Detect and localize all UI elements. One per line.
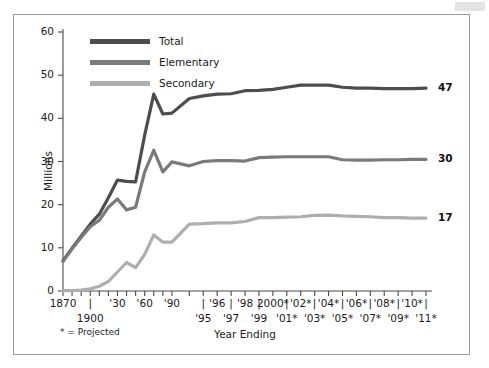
y-tick-label-60: 60 [30, 25, 54, 37]
y-tick-label-20: 20 [30, 198, 54, 210]
legend-swatch-total [90, 39, 150, 44]
x-tick-label-upper-16: '06* [346, 297, 368, 309]
x-tick-label-lower-4: '01* [276, 312, 298, 324]
x-tick-label-upper-15: | [341, 297, 345, 309]
chart-screenshot: Millions 0102030405060 TotalElementarySe… [0, 0, 489, 368]
end-value-total: 47 [438, 81, 453, 93]
legend-item-secondary[interactable]: Secondary [90, 73, 219, 94]
scan-artifact [455, 2, 485, 11]
legend-item-elementary[interactable]: Elementary [90, 52, 219, 73]
legend-label-elementary: Elementary [159, 57, 219, 68]
legend-label-secondary: Secondary [159, 78, 215, 89]
x-tick-label-lower-8: '09* [387, 312, 409, 324]
x-axis-labels-lower: 1900'95'97'99'01*'03*'05*'07*'09*'11* [14, 312, 471, 325]
x-tick-label-lower-7: '07* [360, 312, 382, 324]
x-tick-label-lower-2: '97 [223, 312, 239, 324]
y-tick-label-30: 30 [30, 155, 54, 167]
x-tick-label-upper-3: '60 [137, 297, 153, 309]
x-tick-label-lower-0: 1900 [77, 312, 104, 324]
legend-swatch-secondary [90, 81, 150, 86]
x-tick-label-lower-6: '05* [332, 312, 354, 324]
x-tick-label-upper-8: '98 [237, 297, 253, 309]
x-axis-title: Year Ending [214, 328, 276, 340]
legend-item-total[interactable]: Total [90, 31, 219, 52]
x-tick-label-lower-9: '11* [415, 312, 437, 324]
end-value-elementary: 30 [438, 152, 453, 164]
x-tick-label-upper-19: | [396, 297, 400, 309]
end-value-secondary: 17 [438, 211, 453, 223]
x-tick-label-upper-17: | [369, 297, 373, 309]
x-tick-label-upper-12: '02* [290, 297, 312, 309]
y-tick-label-40: 40 [30, 111, 54, 123]
x-tick-label-upper-1: | [88, 297, 92, 309]
x-tick-label-upper-2: '30 [109, 297, 125, 309]
y-tick-label-50: 50 [30, 68, 54, 80]
legend-label-total: Total [159, 36, 184, 47]
x-tick-label-upper-18: '08* [373, 297, 395, 309]
x-tick-label-upper-21: | [424, 297, 428, 309]
x-tick-label-upper-7: | [229, 297, 233, 309]
y-tick-label-0: 0 [30, 284, 54, 296]
chart-legend: TotalElementarySecondary [90, 31, 219, 94]
projected-footnote: * = Projected [60, 327, 120, 337]
x-tick-label-upper-20: '10* [401, 297, 423, 309]
x-tick-label-upper-14: '04* [318, 297, 340, 309]
figure-frame: Millions 0102030405060 TotalElementarySe… [13, 14, 470, 355]
x-tick-label-upper-11: | [285, 297, 289, 309]
x-tick-label-lower-3: '99 [251, 312, 267, 324]
legend-swatch-elementary [90, 60, 150, 65]
x-axis-labels-upper: 1870|'30'60'90|'96|'98|2000*|'02*|'04*|'… [14, 297, 471, 310]
x-tick-label-upper-6: '96 [209, 297, 225, 309]
x-tick-label-lower-5: '03* [304, 312, 326, 324]
x-tick-label-lower-1: '95 [195, 312, 211, 324]
y-tick-label-10: 10 [30, 241, 54, 253]
x-tick-label-upper-4: '90 [164, 297, 180, 309]
x-tick-label-upper-13: | [313, 297, 317, 309]
x-tick-label-upper-0: 1870 [50, 297, 77, 309]
x-tick-label-upper-5: | [201, 297, 205, 309]
